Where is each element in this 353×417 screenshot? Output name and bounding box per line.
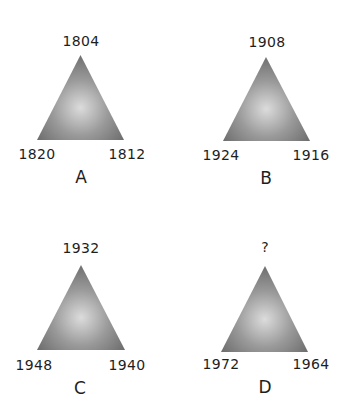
- panel-b-right-number: 1916: [293, 147, 330, 163]
- panel-c-letter: C: [74, 379, 86, 397]
- panel-d-right-number: 1964: [293, 356, 330, 372]
- panel-d-left-number: 1972: [203, 356, 240, 372]
- panel-a-left-number: 1820: [19, 146, 56, 162]
- panel-a-right-number: 1812: [109, 146, 146, 162]
- panel-b-letter: B: [260, 169, 272, 187]
- panel-b-left-number: 1924: [203, 147, 240, 163]
- triangle-b: [223, 57, 310, 141]
- triangle-d: [221, 266, 308, 352]
- panel-a-top-number: 1804: [63, 33, 100, 49]
- panel-b-top-number: 1908: [249, 34, 286, 50]
- panel-c-left-number: 1948: [16, 357, 53, 373]
- triangle-c: [37, 265, 125, 350]
- panel-d-missing-number: ?: [261, 239, 269, 255]
- triangle-a: [37, 55, 124, 140]
- panel-a-letter: A: [75, 168, 87, 186]
- panel-c-right-number: 1940: [109, 357, 146, 373]
- panel-d-letter: D: [258, 378, 271, 396]
- panel-c-top-number: 1932: [63, 240, 100, 256]
- triangle-puzzle-canvas: [0, 0, 353, 417]
